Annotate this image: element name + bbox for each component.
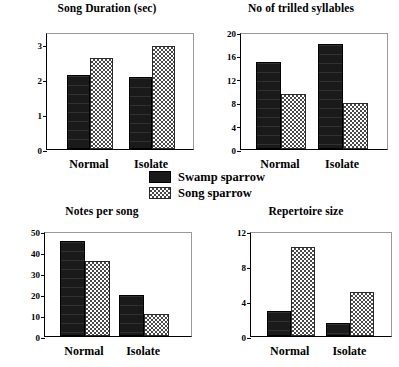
y-axis-tick-label: 2 (38, 77, 48, 86)
chart-title: No of trilled syllables (206, 2, 396, 14)
legend: Swamp sparrow Song sparrow (149, 169, 265, 201)
bar-song-sparrow-isolate (343, 103, 368, 149)
y-axis-tick-label: 4 (232, 123, 242, 132)
chart-title: Repertoire size (214, 205, 398, 217)
x-axis-tick-label: Normal (260, 157, 299, 172)
y-axis-tick-label: 40 (31, 250, 45, 259)
chart-title: Song Duration (sec) (14, 2, 200, 14)
chart-panel-notes-per-song: Notes per song 01020304050 NormalIsolate (4, 205, 200, 365)
bar-swamp-sparrow-isolate (119, 295, 144, 336)
bar-song-sparrow-isolate (350, 292, 374, 336)
y-axis-tick-label: 0 (38, 147, 48, 156)
plot-area: 0123 (46, 33, 194, 150)
y-axis-tick-label: 0 (36, 334, 46, 343)
x-axis-tick-label: Isolate (325, 157, 359, 172)
legend-swatch-checkered-icon (149, 187, 171, 199)
chart-panel-repertoire-size: Repertoire size 04812 NormalIsolate (214, 205, 398, 365)
x-axis-tick-label: Normal (270, 344, 309, 359)
y-axis-tick-label: 0 (242, 334, 252, 343)
bar-song-sparrow-isolate (144, 314, 169, 336)
bar-song-sparrow-normal (90, 58, 113, 149)
bar-swamp-sparrow-normal (256, 62, 281, 149)
bar-swamp-sparrow-normal (60, 241, 85, 336)
legend-item-song-sparrow: Song sparrow (149, 185, 265, 201)
x-axis-tick-label: Normal (64, 344, 103, 359)
legend-item-swamp-sparrow: Swamp sparrow (149, 169, 265, 185)
bar-song-sparrow-normal (291, 247, 315, 336)
x-axis-tick-label: Isolate (126, 344, 160, 359)
y-axis-tick-label: 8 (242, 264, 252, 273)
bar-song-sparrow-isolate (152, 46, 175, 149)
legend-label: Swamp sparrow (171, 170, 265, 185)
y-axis-tick-label: 12 (237, 229, 251, 238)
bar-swamp-sparrow-isolate (326, 323, 350, 336)
y-axis-tick-label: 3 (38, 42, 48, 51)
bar-swamp-sparrow-normal (267, 311, 291, 336)
bar-swamp-sparrow-isolate (318, 44, 343, 149)
y-axis-tick-label: 8 (232, 100, 242, 109)
y-axis-tick-label: 1 (38, 112, 48, 121)
y-axis-tick-label: 10 (31, 313, 45, 322)
y-axis-tick-label: 50 (31, 229, 45, 238)
bar-swamp-sparrow-normal (67, 75, 90, 149)
y-axis-tick-label: 20 (31, 292, 45, 301)
plot-area: 04812 (250, 232, 392, 337)
bar-swamp-sparrow-isolate (129, 77, 152, 149)
chart-panel-song-duration: Song Duration (sec) 0123 NormalIsolate (14, 2, 200, 170)
y-axis-tick-label: 30 (31, 271, 45, 280)
chart-title: Notes per song (4, 205, 200, 217)
y-axis-tick-label: 4 (242, 299, 252, 308)
plot-area: 01020304050 (44, 232, 192, 337)
y-axis-tick-label: 12 (227, 76, 241, 85)
bar-song-sparrow-normal (281, 94, 306, 149)
x-axis-tick-label: Normal (69, 157, 108, 172)
x-axis-tick-label: Isolate (332, 344, 366, 359)
y-axis-tick-label: 0 (232, 147, 242, 156)
legend-swatch-solid-icon (149, 171, 171, 183)
y-axis-tick-label: 20 (227, 30, 241, 39)
plot-area: 048121620 (240, 33, 388, 150)
bar-song-sparrow-normal (85, 261, 110, 336)
y-axis-tick-label: 16 (227, 53, 241, 62)
chart-panel-trilled-syllables: No of trilled syllables 048121620 Normal… (206, 2, 396, 170)
legend-label: Song sparrow (171, 186, 252, 201)
